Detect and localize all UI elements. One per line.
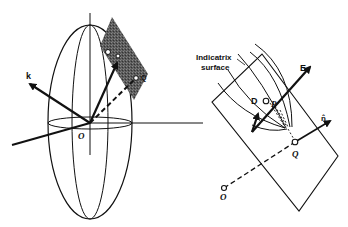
oq-dashed-enlarged [224, 142, 295, 188]
label-k: k [26, 71, 32, 81]
diagram-canvas: k O Q [0, 0, 348, 227]
label-surface: surface [201, 63, 230, 72]
label-e: E [300, 63, 306, 73]
label-d: D [251, 96, 258, 106]
indicatrix-curve-3 [255, 44, 292, 127]
point-p-marker-enlarged [263, 98, 269, 104]
left-panel: k O Q [12, 13, 180, 219]
point-p-marker [116, 54, 120, 58]
point-d-marker [106, 50, 111, 55]
op-vector [90, 63, 117, 123]
label-indicatrix: Indicatrix [196, 53, 232, 62]
oq-dashed [90, 80, 134, 123]
point-q-marker-enlarged [292, 139, 298, 145]
point-o-marker-enlarged [222, 186, 227, 191]
label-n: n̂ [321, 114, 326, 123]
ray-2 [275, 106, 287, 127]
label-p: P [271, 99, 277, 109]
label-q-left: Q [141, 74, 147, 82]
label-o: O [220, 192, 227, 202]
k-vector [30, 84, 90, 123]
e-vector [252, 67, 310, 132]
right-panel: Indicatrix surface E D P n̂ Q O [180, 44, 338, 211]
tangent-plane-enlarged [212, 54, 338, 211]
indicatrix-curve-2 [250, 52, 290, 127]
point-q-marker [134, 76, 139, 81]
label-origin-left: O [78, 131, 85, 141]
label-q: Q [292, 149, 299, 159]
